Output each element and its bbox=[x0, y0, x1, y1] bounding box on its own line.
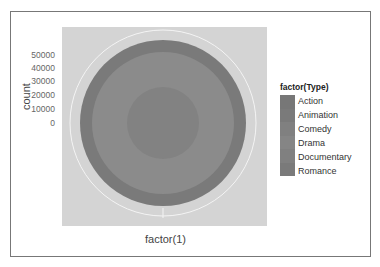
ring-inner bbox=[127, 87, 199, 159]
legend-label: Animation bbox=[298, 110, 338, 120]
legend-key bbox=[280, 136, 295, 150]
y-tick: 0 bbox=[15, 118, 55, 128]
legend-key bbox=[280, 149, 295, 163]
legend-title: factor(Type) bbox=[280, 82, 329, 92]
legend-label: Action bbox=[298, 96, 323, 106]
legend-label: Romance bbox=[298, 166, 337, 176]
legend-key bbox=[280, 95, 295, 109]
y-axis-label: count bbox=[20, 83, 32, 110]
legend-label: Documentary bbox=[298, 152, 352, 162]
legend-label: Comedy bbox=[298, 124, 332, 134]
y-tick: 50000 bbox=[15, 50, 55, 60]
y-tick: 40000 bbox=[15, 63, 55, 73]
legend-label: Drama bbox=[298, 138, 325, 148]
x-axis-label: factor(1) bbox=[145, 233, 186, 245]
legend-key bbox=[280, 163, 295, 177]
legend-key bbox=[280, 109, 295, 123]
legend-key bbox=[280, 122, 295, 136]
